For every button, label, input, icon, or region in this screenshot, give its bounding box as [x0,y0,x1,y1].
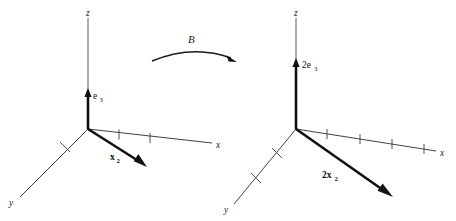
domain-x-ticks [119,130,150,144]
domain-vector-e3-label: e 3 [93,91,104,103]
transformation-arrowhead [227,55,238,62]
codomain-2e3-subscript: 3 [314,65,318,72]
codomain-2e3-base: 2e [302,60,311,70]
domain-e3-subscript: 3 [100,96,104,103]
tick [60,142,70,152]
transformation-operator-label: B [188,33,195,45]
codomain-2x2-subscript: 2 [335,175,339,182]
codomain-z-axis-label: z [293,8,298,18]
domain-x2-subscript: 2 [117,157,121,164]
domain-y-axis [20,129,88,197]
codomain-x-axis-label: x [439,148,445,158]
figure-canvas: z x y e 3 x 2 B [0,0,456,221]
transformation-arrow-group: B [152,33,237,62]
codomain-y-ticks [251,148,282,183]
domain-x2-base: x [110,152,115,162]
transformation-arc [152,52,231,61]
vector-transformation-svg: z x y e 3 x 2 B [0,0,456,221]
codomain-vector-2x2 [296,129,393,197]
domain-vector-x2-arrowhead [134,154,147,167]
panel-codomain: z x y 2e 3 2x 2 [223,8,445,215]
codomain-2x2-base: 2x [322,170,332,180]
codomain-y-axis-label: y [223,205,229,215]
domain-x-axis-label: x [215,140,221,150]
codomain-vector-2x2-shaft [296,129,383,190]
codomain-y-axis [234,129,296,204]
domain-e3-base: e [93,91,97,101]
codomain-vector-2e3-label: 2e 3 [302,60,318,72]
domain-z-axis-label: z [85,8,90,18]
codomain-vector-2x2-arrowhead [378,183,394,197]
domain-y-axis-label: y [8,198,14,208]
codomain-vector-2e3 [292,58,299,129]
codomain-vector-2x2-label: 2x 2 [322,170,339,182]
domain-vector-e3-arrowhead [84,88,91,97]
domain-vector-x2-label: x 2 [110,152,121,164]
domain-y-ticks [60,142,70,152]
codomain-vector-2e3-arrowhead [292,58,299,67]
codomain-x-axis [296,129,436,151]
domain-vector-e3 [84,88,91,129]
